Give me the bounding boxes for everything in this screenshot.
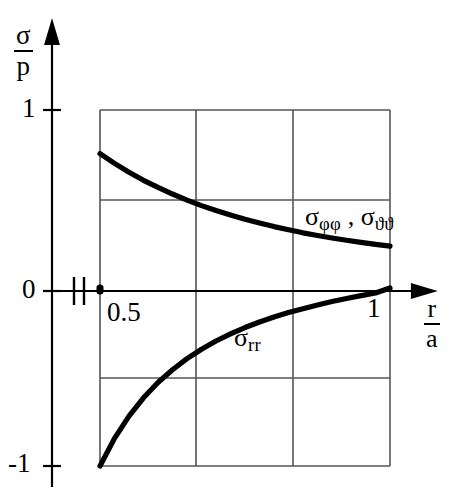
x-tick-label-1: 1 [367,293,381,324]
y-axis-label: σ p [14,22,33,80]
x-axis-label-numerator: r [424,296,440,325]
hoop-subscript-2: ϑϑ [375,213,394,234]
x-axis-label-fraction: r a [424,296,440,352]
hoop-subscript-1: φφ [319,213,341,234]
radial-subscript: rr [248,334,261,355]
hoop-sigma-2: σ [361,202,375,231]
y-tick-label-1: 1 [22,93,36,124]
x-axis-label-denominator: a [424,325,440,352]
grid-lines [100,110,390,466]
radial-sigma: σ [234,323,248,352]
y-axis [43,22,61,487]
stress-distribution-figure: σ p r a 1 0 -1 0.5 1 σφφ , σϑϑ σrr [0,0,465,491]
curve-radial-stress [100,288,390,466]
curve-label-hoop-stress: σφφ , σϑϑ [305,202,394,235]
y-tick-label-0: 0 [22,274,36,305]
hoop-separator: , [341,202,361,231]
y-axis-label-fraction: σ p [14,22,33,80]
y-axis-arrowhead [46,22,59,44]
y-tick-label-neg1: -1 [8,448,31,479]
y-axis-label-numerator: σ [14,22,33,52]
hoop-sigma-1: σ [305,202,319,231]
curve-label-radial-stress: σrr [234,323,261,356]
x-tick-label-0-5: 0.5 [107,297,141,328]
y-axis-label-denominator: p [14,52,33,80]
figure-canvas [0,0,465,491]
data-point-dot [96,284,103,291]
x-axis-label: r a [424,296,440,352]
